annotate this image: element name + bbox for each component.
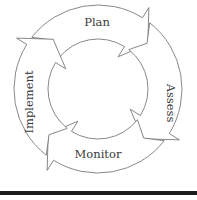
bottom-rule — [0, 191, 197, 195]
step-label-implement: Implement — [22, 70, 36, 133]
step-label-plan: Plan — [84, 15, 110, 29]
step-label-monitor: Monitor — [75, 147, 122, 161]
step-label-assess: Assess — [164, 83, 178, 123]
cycle-diagram: Plan Assess Monitor Implement — [0, 0, 197, 200]
